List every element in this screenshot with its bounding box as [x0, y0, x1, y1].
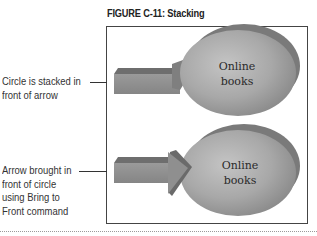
- callout-leader-line: [79, 171, 107, 172]
- callout-line: front of circle: [2, 178, 71, 192]
- callout-arrow-in-front: Arrow brought in front of circle using B…: [2, 164, 71, 218]
- oval-label-line2: books: [224, 174, 257, 187]
- arrow-shape: [114, 150, 192, 196]
- callout-line: using Bring to: [2, 191, 71, 205]
- callout-circle-in-front: Circle is stacked in front of arrow: [2, 75, 81, 102]
- oval-label-line1: Online: [219, 60, 256, 73]
- callout-line: Arrow brought in: [2, 164, 71, 178]
- example-circle-in-front: Online books: [114, 24, 300, 116]
- arrow-shape: [114, 60, 190, 94]
- oval-label-line1: Online: [222, 159, 259, 172]
- callout-line: Circle is stacked in: [2, 75, 81, 89]
- callout-line: Front command: [2, 205, 71, 219]
- section-divider: [0, 231, 317, 232]
- oval-label-line2: books: [221, 75, 254, 88]
- callout-line: front of arrow: [2, 89, 81, 103]
- callout-leader-line: [90, 82, 107, 83]
- example-arrow-in-front: Online books: [114, 124, 300, 216]
